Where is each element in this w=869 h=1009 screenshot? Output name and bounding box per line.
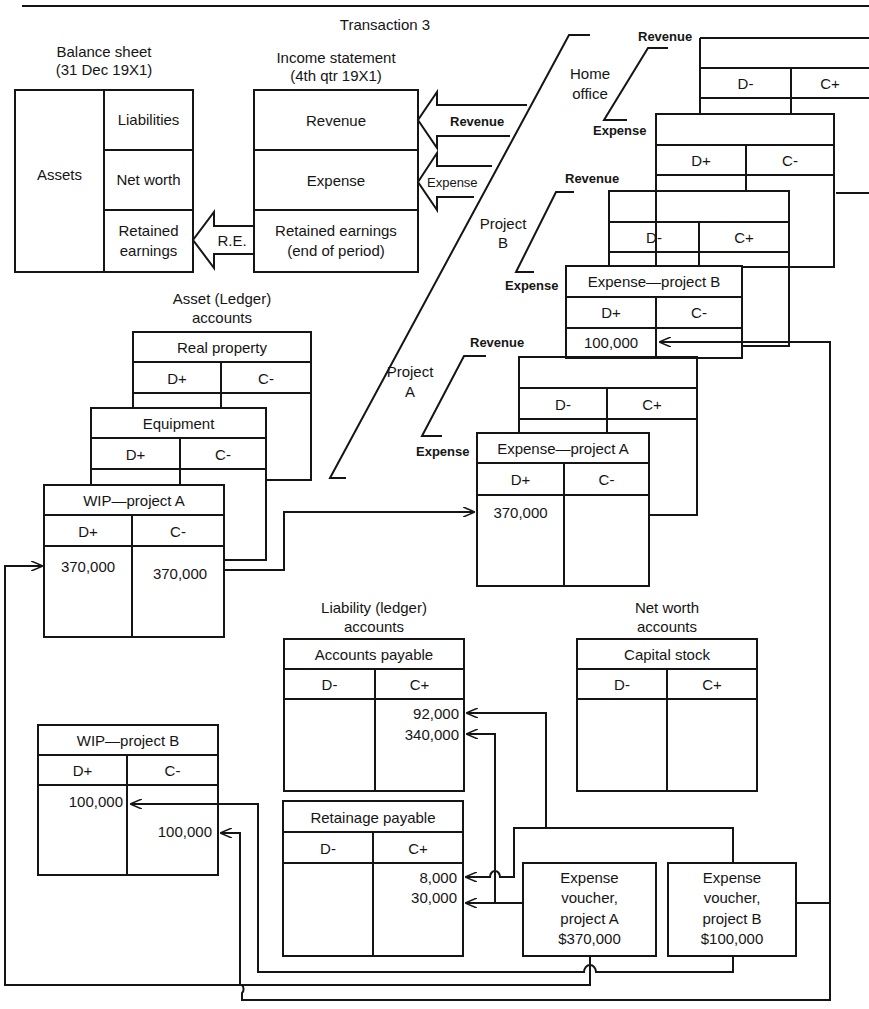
home-office-label-2: office xyxy=(565,85,615,102)
accounts-payable-title: Accounts payable xyxy=(284,646,464,663)
income-statement-heading: Income statement xyxy=(254,49,418,66)
wipa-credit-header: C- xyxy=(132,523,224,540)
rtp-credit-header: C+ xyxy=(373,840,463,857)
home-office-label-1: Home xyxy=(565,65,615,82)
retained-earnings-label-1: Retained xyxy=(104,222,193,239)
revenue-arrow-label: Revenue xyxy=(450,113,504,130)
home-expense-debit-header: D+ xyxy=(656,152,746,169)
project-a-expense-label: Expense xyxy=(416,443,469,460)
project-a-label-2: A xyxy=(382,383,438,400)
expense-arrow-label: Expense xyxy=(427,174,478,191)
project-a-label-1: Project xyxy=(382,363,438,380)
is-retained-label-1: Retained earnings xyxy=(254,222,418,239)
project-b-label-2: B xyxy=(475,234,531,251)
voucher-b-line1: Expense xyxy=(668,869,796,886)
wip-project-a-title: WIP—project A xyxy=(44,492,224,509)
project-b-revenue-label: Revenue xyxy=(565,170,619,187)
wipb-debit-header: D+ xyxy=(38,762,127,779)
rtp-credit-entry-2: 30,000 xyxy=(373,889,457,906)
is-revenue-label: Revenue xyxy=(254,112,418,129)
project-b-label-1: Project xyxy=(475,215,531,232)
epb-credit-header: C- xyxy=(656,304,742,321)
net-worth-accounts-heading-1: Net worth xyxy=(577,599,757,616)
home-revenue-debit-header: D- xyxy=(700,75,791,92)
project-b-expense-label: Expense xyxy=(505,277,558,294)
retainage-payable-title: Retainage payable xyxy=(283,809,463,826)
wipb-debit-entry: 100,000 xyxy=(38,793,123,810)
is-expense-label: Expense xyxy=(254,172,418,189)
liability-accounts-heading-1: Liability (ledger) xyxy=(284,599,464,616)
home-expense-label: Expense xyxy=(593,122,646,139)
voucher-b-line3: project B xyxy=(668,910,796,927)
liability-accounts-heading-2: accounts xyxy=(284,618,464,635)
voucher-a-line3: project A xyxy=(523,910,656,927)
cs-credit-header: C+ xyxy=(667,676,757,693)
wipa-debit-header: D+ xyxy=(44,523,132,540)
assets-label: Assets xyxy=(15,166,104,183)
epa-debit-entry: 370,000 xyxy=(477,504,564,521)
ap-credit-entry-2: 340,000 xyxy=(375,726,459,743)
voucher-a-line2: voucher, xyxy=(523,889,656,906)
ap-debit-header: D- xyxy=(284,676,375,693)
equipment-title: Equipment xyxy=(91,415,266,432)
transaction-title: Transaction 3 xyxy=(325,16,445,33)
voucher-a-amount: $370,000 xyxy=(523,930,656,947)
expense-project-a-title: Expense—project A xyxy=(477,440,649,457)
wipb-credit-header: C- xyxy=(127,762,218,779)
rp-credit-header: C- xyxy=(221,370,311,387)
balance-sheet-heading: Balance sheet xyxy=(15,43,193,60)
voucher-a-line1: Expense xyxy=(523,869,656,886)
eq-debit-header: D+ xyxy=(91,446,180,463)
voucher-b-amount: $100,000 xyxy=(668,930,796,947)
pb-revenue-debit-header: D- xyxy=(609,229,699,246)
expense-project-b-title: Expense—project B xyxy=(566,273,742,290)
asset-accounts-heading-2: accounts xyxy=(133,309,311,326)
pa-revenue-credit-header: C+ xyxy=(607,396,697,413)
ap-credit-header: C+ xyxy=(375,676,464,693)
voucher-b-line2: voucher, xyxy=(668,889,796,906)
home-revenue-credit-header: C+ xyxy=(791,75,869,92)
home-revenue-label: Revenue xyxy=(638,28,692,45)
balance-sheet-date: (31 Dec 19X1) xyxy=(15,61,193,78)
retained-earnings-label-2: earnings xyxy=(104,242,193,259)
epb-debit-header: D+ xyxy=(566,304,656,321)
home-expense-credit-header: C- xyxy=(746,152,834,169)
wip-project-b-title: WIP—project B xyxy=(38,732,218,749)
asset-accounts-heading-1: Asset (Ledger) xyxy=(133,290,311,307)
pb-revenue-credit-header: C+ xyxy=(699,229,789,246)
eq-credit-header: C- xyxy=(180,446,266,463)
net-worth-accounts-heading-2: accounts xyxy=(577,618,757,635)
is-retained-label-2: (end of period) xyxy=(254,242,418,259)
real-property-title: Real property xyxy=(133,339,311,356)
income-statement-period: (4th qtr 19X1) xyxy=(254,67,418,84)
epb-debit-entry: 100,000 xyxy=(566,334,656,351)
pa-revenue-debit-header: D- xyxy=(519,396,607,413)
epa-credit-header: C- xyxy=(564,471,649,488)
liabilities-label: Liabilities xyxy=(104,111,193,128)
re-arrow-label: R.E. xyxy=(210,232,254,249)
rtp-debit-header: D- xyxy=(283,840,373,857)
wipb-credit-entry: 100,000 xyxy=(127,823,212,840)
cs-debit-header: D- xyxy=(577,676,667,693)
rp-debit-header: D+ xyxy=(133,370,221,387)
capital-stock-title: Capital stock xyxy=(577,646,757,663)
ap-credit-entry-1: 92,000 xyxy=(375,705,459,722)
net-worth-label: Net worth xyxy=(104,171,193,188)
wipa-debit-entry: 370,000 xyxy=(44,558,132,575)
wipa-credit-entry: 370,000 xyxy=(136,565,224,582)
project-a-revenue-label: Revenue xyxy=(470,334,524,351)
rtp-credit-entry-1: 8,000 xyxy=(373,869,457,886)
epa-debit-header: D+ xyxy=(477,471,564,488)
